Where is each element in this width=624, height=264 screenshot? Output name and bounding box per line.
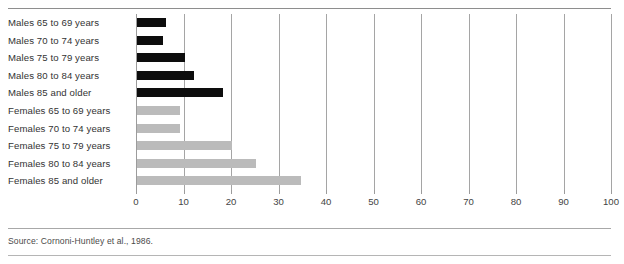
x-tick-label: 60	[401, 196, 441, 207]
category-label-column: Males 65 to 69 yearsMales 70 to 74 years…	[0, 14, 130, 190]
x-tick-mark	[421, 190, 422, 194]
x-tick-mark	[469, 190, 470, 194]
bar	[137, 106, 180, 115]
gridline-50	[374, 14, 375, 190]
source-top-rule	[8, 228, 611, 229]
gridline-80	[516, 14, 517, 190]
category-label: Females 85 and older	[8, 173, 126, 189]
category-label: Females 75 to 79 years	[8, 138, 126, 154]
x-tick-label: 0	[116, 196, 156, 207]
x-tick-mark	[326, 190, 327, 194]
x-tick-mark	[231, 190, 232, 194]
x-tick-mark	[279, 190, 280, 194]
x-tick-mark	[136, 190, 137, 194]
x-tick-label: 50	[354, 196, 394, 207]
x-tick-label: 40	[306, 196, 346, 207]
top-divider-rule	[8, 8, 611, 9]
x-axis: 0102030405060708090100	[136, 190, 611, 212]
category-label: Females 70 to 74 years	[8, 121, 126, 137]
source-bottom-rule	[8, 255, 611, 256]
category-label: Males 75 to 79 years	[8, 50, 126, 66]
bar	[137, 141, 232, 150]
plot-area: Males 65 to 69 yearsMales 70 to 74 years…	[0, 14, 619, 190]
bar	[137, 36, 163, 45]
bar	[137, 176, 301, 185]
category-label: Females 80 to 84 years	[8, 156, 126, 172]
x-tick-label: 100	[591, 196, 624, 207]
category-label: Males 65 to 69 years	[8, 15, 126, 31]
gridline-60	[421, 14, 422, 190]
x-tick-mark	[564, 190, 565, 194]
x-tick-mark	[184, 190, 185, 194]
x-tick-label: 90	[544, 196, 584, 207]
bar	[137, 53, 185, 62]
gridline-100	[611, 14, 612, 190]
category-label: Males 80 to 84 years	[8, 68, 126, 84]
x-tick-label: 30	[259, 196, 299, 207]
x-tick-label: 80	[496, 196, 536, 207]
bar	[137, 88, 223, 97]
x-tick-label: 10	[164, 196, 204, 207]
gridline-30	[279, 14, 280, 190]
gridline-90	[564, 14, 565, 190]
bar	[137, 124, 180, 133]
x-tick-mark	[516, 190, 517, 194]
x-tick-mark	[611, 190, 612, 194]
bar	[137, 18, 166, 27]
x-tick-mark	[374, 190, 375, 194]
gridline-40	[326, 14, 327, 190]
source-note: Source: Cornoni-Huntley et al., 1986.	[8, 236, 153, 246]
bar	[137, 159, 256, 168]
category-label: Males 85 and older	[8, 85, 126, 101]
gridline-70	[469, 14, 470, 190]
x-tick-label: 20	[211, 196, 251, 207]
bars-area	[136, 14, 611, 190]
category-label: Males 70 to 74 years	[8, 33, 126, 49]
x-tick-label: 70	[449, 196, 489, 207]
category-label: Females 65 to 69 years	[8, 103, 126, 119]
bar	[137, 71, 194, 80]
